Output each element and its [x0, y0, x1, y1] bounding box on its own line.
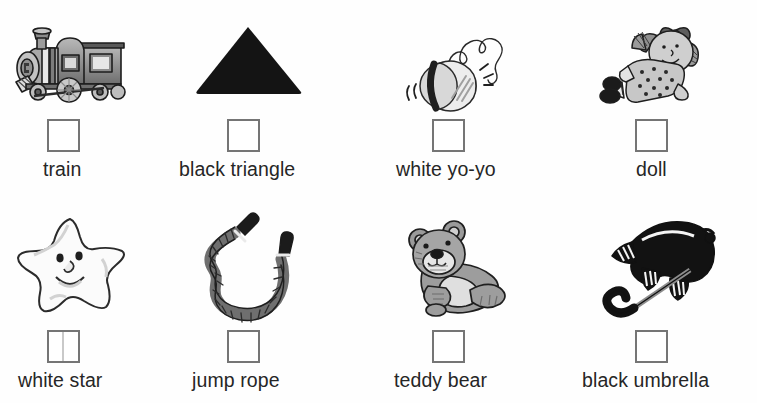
checkbox-rope[interactable] — [227, 330, 260, 363]
item-label-umbrella: black umbrella — [582, 371, 709, 391]
jump-rope-illustration — [197, 211, 305, 323]
checkbox-star[interactable] — [47, 330, 80, 363]
item-label-rope: jump rope — [192, 371, 280, 391]
item-label-yoyo: white yo-yo — [396, 160, 496, 180]
black-triangle-illustration — [193, 24, 305, 98]
teddy-bear-illustration — [402, 218, 518, 322]
checkbox-bear[interactable] — [432, 330, 465, 363]
white-star-illustration — [10, 213, 134, 319]
checkbox-yoyo[interactable] — [432, 119, 465, 152]
checkbox-triangle[interactable] — [227, 119, 260, 152]
item-label-bear: teddy bear — [394, 371, 487, 391]
item-label-train: train — [43, 160, 81, 180]
white-yoyo-illustration — [404, 22, 522, 112]
worksheet-page: train black triangle — [0, 0, 757, 403]
checkbox-doll[interactable] — [635, 119, 668, 152]
black-umbrella-illustration — [598, 216, 720, 320]
checkbox-umbrella[interactable] — [635, 330, 668, 363]
doll-illustration — [598, 22, 718, 112]
item-label-doll: doll — [636, 160, 667, 180]
item-label-triangle: black triangle — [179, 160, 295, 180]
train-illustration — [12, 24, 128, 106]
item-label-star: white star — [18, 371, 102, 391]
checkbox-train[interactable] — [47, 119, 80, 152]
